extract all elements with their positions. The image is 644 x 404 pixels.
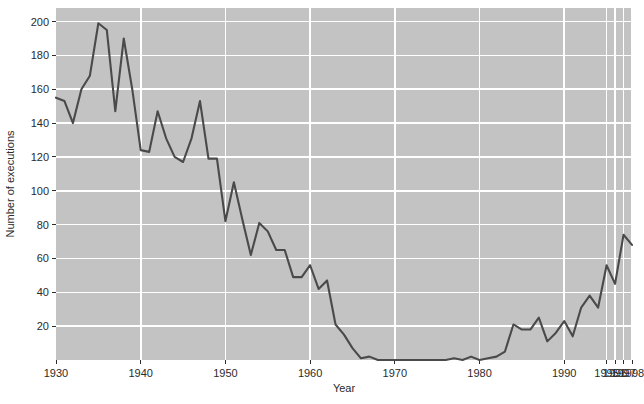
y-tick-label-180: 180 (31, 49, 49, 61)
y-tick-label-200: 200 (31, 16, 49, 28)
x-tick-label-1970: 1970 (383, 367, 407, 379)
x-tick-label-1990: 1990 (552, 367, 576, 379)
y-tick-label-40: 40 (37, 286, 49, 298)
plot-background (56, 8, 632, 360)
x-axis-tick-labels: 1930194019501960197019801990199519961997… (44, 367, 644, 379)
x-axis-title: Year (333, 382, 356, 394)
x-tick-label-1998: 1998 (620, 367, 644, 379)
executions-line-chart: 20406080100120140160180200 1930194019501… (0, 0, 644, 404)
y-tick-label-100: 100 (31, 185, 49, 197)
chart-figure: 20406080100120140160180200 1930194019501… (0, 0, 644, 404)
x-tick-label-1960: 1960 (298, 367, 322, 379)
y-axis-tick-labels: 20406080100120140160180200 (31, 16, 49, 333)
y-tick-label-80: 80 (37, 219, 49, 231)
y-axis-title: Number of executions (4, 130, 16, 237)
x-tick-label-1950: 1950 (213, 367, 237, 379)
x-tick-label-1940: 1940 (128, 367, 152, 379)
y-tick-label-20: 20 (37, 320, 49, 332)
x-tick-label-1930: 1930 (44, 367, 68, 379)
x-tick-label-1980: 1980 (467, 367, 491, 379)
y-tick-label-60: 60 (37, 252, 49, 264)
y-tick-label-120: 120 (31, 151, 49, 163)
y-tick-label-160: 160 (31, 83, 49, 95)
x-axis-ticks (56, 360, 632, 364)
y-tick-label-140: 140 (31, 117, 49, 129)
y-axis-ticks (52, 22, 56, 327)
